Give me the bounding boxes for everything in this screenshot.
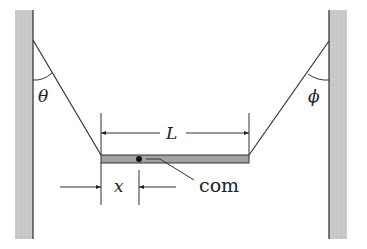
beam-rope-diagram: θ ϕ L x com	[0, 0, 367, 249]
beam	[101, 155, 249, 163]
com-label: com	[199, 174, 239, 196]
length-label: L	[165, 123, 177, 143]
com-dot	[136, 156, 142, 162]
theta-label: θ	[38, 86, 48, 106]
phi-arc	[308, 74, 329, 80]
left-wall	[15, 10, 33, 239]
right-wall	[329, 10, 347, 239]
phi-label: ϕ	[308, 86, 320, 106]
theta-arc	[33, 73, 52, 80]
offset-label: x	[114, 176, 124, 196]
